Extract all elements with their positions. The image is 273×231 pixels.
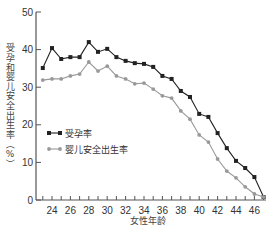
x-tick-label: 32	[120, 205, 132, 216]
data-point	[105, 47, 109, 51]
data-point	[96, 69, 100, 73]
data-point	[225, 146, 229, 150]
y-axis-title-char: 婴	[6, 72, 15, 82]
y-axis-title-char: 生	[6, 119, 15, 130]
y-axis-title-char: 儿	[6, 82, 15, 92]
x-tick-label: 38	[175, 205, 187, 216]
x-tick-label: 34	[138, 205, 150, 216]
data-point	[197, 133, 201, 137]
y-axis-title-char: 全	[6, 100, 15, 111]
legend-marker-icon	[58, 147, 62, 151]
data-point	[133, 61, 137, 65]
data-point	[114, 55, 118, 59]
y-tick-label: 40	[22, 44, 34, 55]
y-tick-label: 20	[22, 119, 34, 130]
data-point	[78, 55, 82, 59]
data-point	[87, 40, 91, 44]
data-point	[234, 176, 238, 180]
y-tick-label: 10	[22, 157, 34, 168]
x-axis-title: 女性年龄	[130, 215, 166, 226]
x-tick-label: 40	[194, 205, 206, 216]
x-tick-label: 46	[249, 205, 261, 216]
data-point	[87, 60, 91, 64]
y-axis-title-char: 安	[6, 90, 15, 101]
legend-label: 受孕率	[65, 128, 92, 139]
data-point	[188, 117, 192, 121]
data-point	[170, 77, 174, 81]
data-point	[68, 55, 72, 59]
y-axis-title-char: %	[6, 149, 15, 159]
data-point	[207, 140, 211, 144]
data-point	[50, 46, 54, 50]
legend-item: 婴儿安全出生率	[47, 144, 128, 155]
data-point	[188, 95, 192, 99]
data-point	[105, 64, 109, 68]
data-point	[170, 96, 174, 100]
data-point	[252, 175, 256, 179]
data-point	[243, 166, 247, 170]
y-axis-title: 受孕和婴儿安全出生率（%）	[5, 42, 15, 168]
data-point	[243, 185, 247, 189]
data-point	[234, 159, 238, 163]
data-point	[41, 66, 45, 70]
data-point	[216, 157, 220, 161]
data-point	[160, 74, 164, 78]
legend-label: 婴儿安全出生率	[65, 144, 128, 155]
data-point	[41, 78, 45, 82]
legend-marker-icon	[47, 131, 51, 135]
series-layer	[41, 40, 266, 199]
axes: 01020304050242628303234363840424446	[22, 7, 266, 217]
data-point	[179, 89, 183, 93]
data-point	[179, 109, 183, 113]
y-axis-title-char: 率	[6, 129, 15, 140]
y-axis-title-char: 受	[6, 42, 15, 53]
x-tick-label: 44	[230, 205, 242, 216]
data-point	[142, 81, 146, 85]
data-point	[216, 131, 220, 135]
data-point	[115, 74, 119, 78]
data-point	[151, 65, 155, 69]
x-tick-label: 30	[102, 205, 114, 216]
data-point	[133, 82, 137, 86]
data-point	[96, 50, 100, 54]
y-axis-title-char: 孕	[6, 53, 15, 63]
data-point	[206, 115, 210, 119]
y-axis-title-char: （	[5, 140, 15, 149]
data-point	[124, 77, 128, 81]
x-tick-label: 28	[83, 205, 95, 216]
y-axis-title-char: 和	[6, 63, 15, 73]
y-tick-label: 50	[22, 7, 34, 18]
data-point	[253, 192, 257, 196]
data-point	[151, 87, 155, 91]
x-tick-label: 26	[65, 205, 77, 216]
y-tick-label: 30	[22, 82, 34, 93]
x-tick-label: 42	[212, 205, 224, 216]
legend-marker-icon	[47, 147, 51, 151]
legend-marker-icon	[58, 131, 62, 135]
data-point	[59, 57, 63, 61]
data-point	[161, 94, 165, 98]
data-point	[197, 112, 201, 116]
legend: 受孕率婴儿安全出生率	[47, 128, 128, 155]
y-axis-title-char: 出	[6, 110, 15, 121]
data-point	[225, 169, 229, 173]
data-point	[124, 59, 128, 63]
x-tick-label: 36	[157, 205, 169, 216]
x-tick-label: 24	[46, 205, 58, 216]
legend-item: 受孕率	[47, 128, 92, 139]
data-point	[59, 77, 63, 81]
y-tick-label: 0	[27, 195, 33, 206]
data-point	[78, 72, 82, 76]
data-point	[142, 62, 146, 66]
line-chart: 受孕和婴儿安全出生率（%） 01020304050242628303234363…	[0, 0, 273, 231]
data-point	[69, 74, 73, 78]
data-point	[50, 77, 54, 81]
data-point	[262, 195, 266, 199]
y-axis-title-char: ）	[5, 159, 15, 168]
